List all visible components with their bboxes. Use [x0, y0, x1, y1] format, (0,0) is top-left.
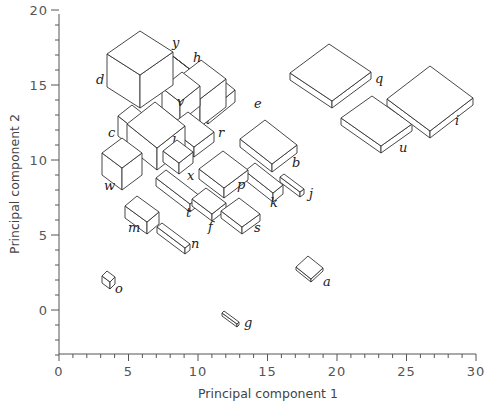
- box-glyph-j: j: [280, 174, 313, 201]
- y-tick-label: 15: [29, 78, 48, 93]
- y-tick-label: 20: [29, 3, 48, 18]
- glyph-layer: eyhvrcdlxwbtjkpfsmnoquiag: [96, 31, 473, 330]
- box-glyph-o: o: [102, 271, 123, 296]
- x-tick-label: 20: [328, 364, 347, 379]
- point-label: x: [187, 168, 195, 183]
- point-label: p: [237, 177, 246, 192]
- point-label: r: [218, 125, 225, 140]
- box-top: [290, 44, 371, 101]
- point-label: j: [306, 186, 313, 201]
- point-label: k: [270, 195, 278, 210]
- box-glyph-s: s: [221, 198, 261, 235]
- y-tick-label: 0: [39, 303, 48, 318]
- point-label: c: [108, 125, 116, 140]
- point-label: g: [244, 315, 252, 330]
- point-label: a: [323, 274, 331, 289]
- point-label: v: [177, 94, 185, 109]
- box-glyph-m: m: [125, 196, 159, 235]
- point-label: q: [375, 71, 383, 86]
- box-glyph-n: n: [157, 223, 199, 254]
- point-label: e: [254, 96, 262, 111]
- x-tick-label: 15: [258, 364, 277, 379]
- box-glyph-k: k: [245, 163, 283, 210]
- x-tick-label: 30: [467, 364, 486, 379]
- x-ticks: 051015202530: [54, 354, 485, 379]
- point-label: h: [193, 50, 201, 65]
- point-label: o: [115, 281, 123, 296]
- x-tick-label: 10: [189, 364, 208, 379]
- point-label: m: [128, 220, 140, 235]
- box-glyph-d: d: [96, 31, 173, 108]
- x-axis-title: Principal component 1: [198, 386, 338, 401]
- y-axis-title: Principal component 2: [7, 114, 22, 254]
- box-glyph-b: b: [240, 120, 300, 172]
- point-label: b: [292, 155, 300, 170]
- x-tick-label: 5: [124, 364, 133, 379]
- y-tick-label: 5: [39, 228, 48, 243]
- point-label: d: [96, 72, 104, 87]
- y-ticks: 05101520: [29, 3, 59, 355]
- x-tick-label: 0: [54, 364, 63, 379]
- axes: 05101520 051015202530 Principal componen…: [7, 3, 485, 401]
- x-tick-label: 25: [397, 364, 416, 379]
- point-label: f: [207, 219, 215, 234]
- point-label: y: [171, 35, 180, 50]
- y-tick-label: 10: [29, 153, 48, 168]
- box-top: [296, 256, 323, 279]
- point-label: u: [399, 140, 407, 155]
- point-label: w: [104, 178, 115, 193]
- pca-box-glyph-chart: eyhvrcdlxwbtjkpfsmnoquiag 05101520 05101…: [0, 0, 493, 412]
- box-glyph-a: a: [296, 256, 331, 289]
- point-label: s: [254, 220, 261, 235]
- point-label: i: [455, 113, 459, 128]
- box-glyph-g: g: [222, 311, 252, 330]
- point-label: t: [186, 205, 192, 220]
- point-label: n: [191, 236, 199, 251]
